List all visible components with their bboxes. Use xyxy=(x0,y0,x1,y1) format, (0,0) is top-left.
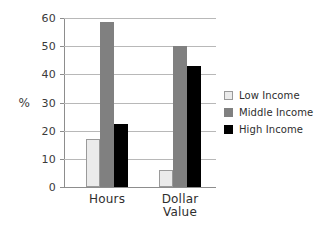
y-tick-mark-40 xyxy=(60,74,64,75)
bar-middle-income-dollar-value xyxy=(173,46,187,187)
y-tick-label-50: 50 xyxy=(32,41,56,52)
y-tick-mark-20 xyxy=(60,131,64,132)
bar-low-income-dollar-value xyxy=(159,170,173,187)
y-tick-mark-60 xyxy=(60,18,64,19)
y-tick-label-40: 40 xyxy=(32,69,56,80)
legend: Low IncomeMiddle IncomeHigh Income xyxy=(224,88,313,139)
legend-label-high-income: High Income xyxy=(239,124,303,135)
y-tick-label-30: 30 xyxy=(32,98,56,109)
high-income-swatch xyxy=(224,125,233,134)
gridline-50 xyxy=(64,46,216,47)
middle-income-swatch xyxy=(224,108,233,117)
y-tick-label-60: 60 xyxy=(32,13,56,24)
y-tick-mark-30 xyxy=(60,103,64,104)
legend-item-low-income[interactable]: Low Income xyxy=(224,88,313,102)
legend-item-high-income[interactable]: High Income xyxy=(224,122,313,136)
bar-low-income-hours xyxy=(86,139,100,187)
y-tick-label-10: 10 xyxy=(32,154,56,165)
low-income-swatch xyxy=(224,91,233,100)
bar-high-income-hours xyxy=(114,124,128,187)
y-tick-label-20: 20 xyxy=(32,126,56,137)
plot-area xyxy=(64,18,209,187)
gridline-0 xyxy=(64,187,216,188)
y-tick-mark-10 xyxy=(60,159,64,160)
bar-chart: % 0102030405060 HoursDollarValue Low Inc… xyxy=(0,0,317,233)
x-category-label-dollar-value: DollarValue xyxy=(135,193,225,219)
x-category-label-line: Value xyxy=(135,206,225,219)
bar-high-income-dollar-value xyxy=(187,66,201,187)
y-tick-mark-0 xyxy=(60,187,64,188)
gridline-60 xyxy=(64,18,216,19)
bar-middle-income-hours xyxy=(100,22,114,187)
legend-label-middle-income: Middle Income xyxy=(239,107,313,118)
legend-item-middle-income[interactable]: Middle Income xyxy=(224,105,313,119)
y-tick-mark-50 xyxy=(60,46,64,47)
y-tick-label-0: 0 xyxy=(32,182,56,193)
y-axis-title: % xyxy=(8,96,30,110)
legend-label-low-income: Low Income xyxy=(239,90,300,101)
